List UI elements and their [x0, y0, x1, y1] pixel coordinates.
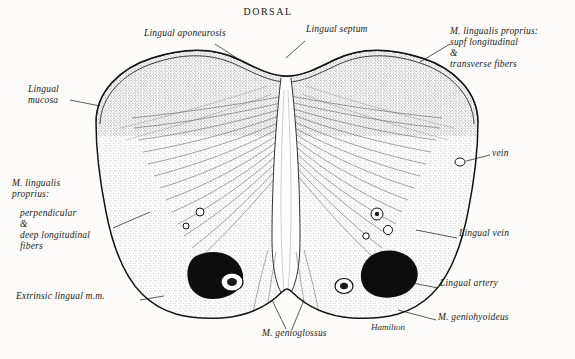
- label-extrinsic-lingual-mm: Extrinsic lingual m.m.: [16, 291, 105, 302]
- label-vein: vein: [492, 148, 509, 159]
- label-m-lingualis-proprius: M. lingualis proprius:: [12, 178, 60, 200]
- label-lingual-vein: Lingual vein: [459, 228, 509, 239]
- orientation-label-dorsal: DORSAL: [228, 6, 308, 17]
- label-lingual-mucosa: Lingual mucosa: [28, 84, 59, 106]
- illustration-page: DORSAL Lingual aponeurosis Lingual septu…: [0, 0, 575, 359]
- label-lingual-septum: Lingual septum: [306, 24, 368, 35]
- label-m-genioglossus: M. genioglossus: [262, 328, 327, 339]
- label-lingual-aponeurosis: Lingual aponeurosis: [144, 28, 226, 39]
- label-m-lingualis-proprius-superior: M. lingualis proprius: supf longitudinal…: [450, 26, 538, 70]
- leader-lines: [70, 41, 490, 329]
- artist-signature: Hamilton: [371, 322, 405, 332]
- label-perpendicular-deep-longitudinal-fibers: perpendicular & deep longitudinal fibers: [20, 208, 90, 252]
- label-m-geniohyoideus: M. geniohyoideus: [438, 312, 509, 323]
- label-lingual-artery: Lingual artery: [440, 278, 498, 289]
